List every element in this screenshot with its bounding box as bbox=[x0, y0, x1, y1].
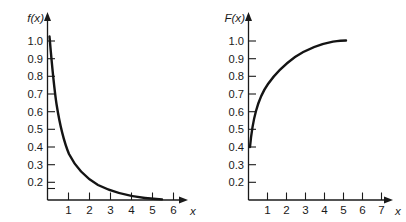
pdf-chart-svg: 1.0 0.9 0.8 0.7 0.6 0.5 0.4 0.3 0.2 0.1 … bbox=[0, 0, 203, 222]
pdf-xtick-label: 5 bbox=[149, 203, 155, 216]
figure-container: 1.0 0.9 0.8 0.7 0.6 0.5 0.4 0.3 0.2 0.1 … bbox=[0, 0, 406, 222]
cdf-ytick-label: 0.5 bbox=[228, 123, 244, 135]
pdf-ytick-label: 0.5 bbox=[27, 123, 43, 135]
cdf-xtick-label: 1 bbox=[264, 203, 270, 216]
cdf-ytick-label: 0.8 bbox=[228, 70, 244, 82]
pdf-x-axis-title: x bbox=[189, 204, 197, 217]
cdf-xtick-label: 2 bbox=[283, 203, 289, 216]
pdf-ytick-label: 0.4 bbox=[27, 141, 43, 153]
cdf-xtick-label: 3 bbox=[302, 203, 308, 216]
chart-panel-pdf: 1.0 0.9 0.8 0.7 0.6 0.5 0.4 0.3 0.2 0.1 … bbox=[0, 0, 203, 222]
cdf-y-tick-labels: 1.0 0.9 0.8 0.7 0.6 0.5 0.4 0.3 0.2 bbox=[228, 35, 244, 188]
pdf-x-tick-labels: 1 2 3 4 5 6 bbox=[65, 203, 176, 216]
cdf-ytick-label: 0.4 bbox=[228, 141, 244, 153]
cdf-xtick-label: 4 bbox=[321, 203, 328, 216]
pdf-ytick-label: 0.3 bbox=[27, 159, 43, 171]
cdf-ytick-label: 0.7 bbox=[228, 88, 244, 100]
chart-panel-cdf: 1.0 0.9 0.8 0.7 0.6 0.5 0.4 0.3 0.2 1 2 … bbox=[203, 0, 406, 222]
cdf-ytick-label: 1.0 bbox=[228, 35, 244, 47]
pdf-xtick-label: 4 bbox=[128, 203, 135, 216]
pdf-xtick-label: 1 bbox=[65, 203, 71, 216]
cdf-ytick-label: 0.3 bbox=[228, 159, 244, 171]
pdf-xtick-label: 6 bbox=[170, 203, 176, 216]
pdf-xtick-label: 2 bbox=[86, 203, 92, 216]
cdf-x-axis-arrow-icon bbox=[384, 197, 393, 204]
pdf-y-axis-arrow-icon bbox=[44, 12, 51, 21]
cdf-xtick-label: 6 bbox=[359, 203, 365, 216]
cdf-chart-svg: 1.0 0.9 0.8 0.7 0.6 0.5 0.4 0.3 0.2 1 2 … bbox=[203, 0, 406, 222]
pdf-xtick-label: 3 bbox=[107, 203, 113, 216]
pdf-y-tick-labels: 1.0 0.9 0.8 0.7 0.6 0.5 0.4 0.3 0.2 0.1 bbox=[27, 35, 43, 188]
cdf-curve-path bbox=[250, 41, 346, 148]
pdf-ytick-label: 0.8 bbox=[27, 70, 43, 82]
cdf-axes-group bbox=[245, 12, 393, 204]
cdf-xtick-label: 5 bbox=[340, 203, 346, 216]
cdf-x-axis-title: x bbox=[394, 204, 402, 217]
cdf-ytick-label: 0.6 bbox=[228, 106, 244, 118]
cdf-xtick-label: 7 bbox=[378, 203, 384, 216]
cdf-x-ticks-group bbox=[268, 193, 382, 201]
pdf-y-axis-title: f(x) bbox=[27, 11, 44, 24]
cdf-y-axis-title: F(x) bbox=[224, 11, 245, 24]
cdf-ytick-label: 0.2 bbox=[228, 176, 244, 188]
cdf-ytick-label: 0.9 bbox=[228, 53, 244, 65]
pdf-curve-path bbox=[50, 37, 163, 200]
pdf-axes-group bbox=[44, 12, 188, 204]
pdf-ytick-label: 0.9 bbox=[27, 53, 43, 65]
pdf-ytick-label: 1.0 bbox=[27, 35, 43, 47]
cdf-x-tick-labels: 1 2 3 4 5 6 7 bbox=[264, 203, 384, 216]
pdf-ytick-label: 0.2 bbox=[27, 176, 43, 188]
cdf-y-axis-arrow-icon bbox=[245, 12, 252, 21]
pdf-ytick-label: 0.7 bbox=[27, 88, 43, 100]
pdf-x-axis-arrow-icon bbox=[179, 197, 188, 204]
pdf-ytick-label: 0.6 bbox=[27, 106, 43, 118]
